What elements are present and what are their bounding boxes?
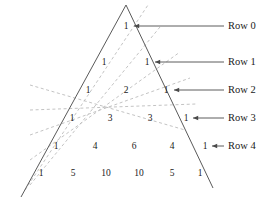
triangle-cell: 1 — [78, 85, 98, 95]
triangle-cell: 1 — [31, 168, 51, 178]
triangle-cell: 3 — [100, 113, 120, 123]
triangle-cell: 1 — [116, 21, 136, 31]
triangle-cell: 1 — [94, 57, 114, 67]
triangle-cell: 4 — [162, 141, 182, 151]
triangle-cell: 5 — [162, 168, 182, 178]
triangle-cell: 6 — [124, 141, 144, 151]
diagonal-line-0 — [30, 27, 160, 185]
triangle-cell: 1 — [195, 141, 215, 151]
triangle-cell: 10 — [129, 168, 149, 178]
triangle-cell: 3 — [140, 113, 160, 123]
row-label-3: Row 3 — [228, 112, 256, 123]
triangle-cell: 1 — [156, 85, 176, 95]
triangle-cell: 2 — [116, 85, 136, 95]
triangle-cell: 4 — [85, 141, 105, 151]
row-label-2: Row 2 — [228, 84, 256, 95]
diagonal-line-5 — [25, 5, 148, 190]
triangle-right-edge — [126, 5, 213, 188]
row-label-1: Row 1 — [228, 56, 256, 67]
row-leader-lines — [134, 24, 224, 149]
triangle-cell: 5 — [63, 168, 83, 178]
triangle-cell: 1 — [176, 113, 196, 123]
triangle-cell: 1 — [190, 168, 210, 178]
triangle-cell: 1 — [62, 113, 82, 123]
triangle-cell: 1 — [46, 141, 66, 151]
row-label-0: Row 0 — [228, 20, 256, 31]
row-label-4: Row 4 — [228, 140, 256, 151]
triangle-cell: 1 — [137, 57, 157, 67]
triangle-cell: 10 — [96, 168, 116, 178]
pascals-triangle-figure: 11112113311464115101051 Row 0Row 1Row 2R… — [0, 0, 273, 202]
